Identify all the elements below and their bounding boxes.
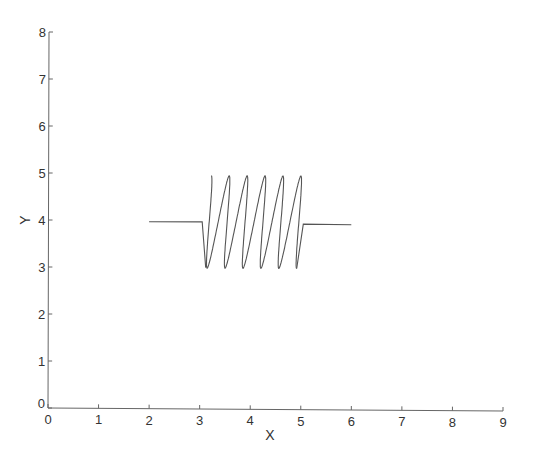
x-tick-label: 1: [95, 412, 102, 427]
series-coil: [149, 176, 351, 269]
x-tick-label: 3: [196, 413, 203, 428]
x-tick-label: 0: [44, 412, 51, 427]
right-lead-line: [297, 224, 352, 268]
y-tick-label: 6: [39, 119, 46, 134]
y-tick-label: 2: [38, 307, 45, 322]
x-tick-label: 8: [449, 415, 456, 430]
y-tick-label: 4: [38, 213, 45, 228]
x-tick-label: 5: [297, 414, 304, 429]
plot-axes: 0123456789 012345678: [38, 25, 507, 430]
y-tick-label: 1: [38, 354, 45, 369]
left-lead-line: [149, 222, 206, 268]
x-tick-label: 6: [348, 414, 355, 429]
coil-curve: [207, 176, 302, 269]
y-tick-label: 5: [38, 166, 45, 181]
y-tick-label: 8: [39, 25, 46, 40]
x-tick-label: 7: [398, 414, 405, 429]
x-tick-label: 2: [145, 413, 152, 428]
y-axis-label: Y: [17, 215, 33, 225]
y-tick-label: 3: [38, 260, 45, 275]
y-tick-label: 7: [39, 72, 46, 87]
x-axis-label: X: [265, 427, 275, 443]
y-tick-label: 0: [38, 396, 45, 411]
y-ticks: 012345678: [38, 25, 53, 411]
x-axis-line: [48, 408, 503, 411]
x-tick-label: 4: [247, 413, 254, 428]
x-ticks: 0123456789: [44, 404, 506, 430]
coil-plot: 0123456789 012345678 X Y: [0, 0, 536, 464]
x-tick-label: 9: [499, 415, 506, 430]
